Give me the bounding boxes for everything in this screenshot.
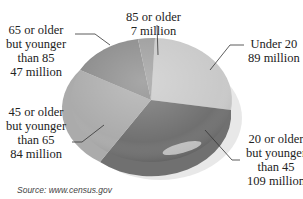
source-note: Source: www.census.gov xyxy=(17,185,112,195)
pie-chart: 65 or older but younger than 85 47 milli… xyxy=(0,0,303,199)
label-85-plus: 85 or older 7 million xyxy=(126,10,181,38)
label-under-20: Under 20 89 million xyxy=(248,37,300,65)
label-45-65: 45 or older but younger than 65 84 milli… xyxy=(6,105,66,161)
label-65-85: 65 or older but younger than 85 47 milli… xyxy=(6,23,66,79)
label-20-45: 20 or older but younger than 45 109 mill… xyxy=(246,132,303,188)
